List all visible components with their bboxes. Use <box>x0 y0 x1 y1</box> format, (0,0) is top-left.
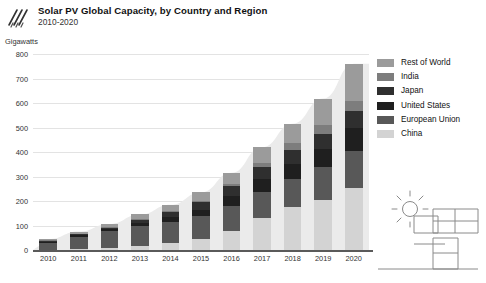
bar-series-layer <box>33 54 369 250</box>
legend-swatch-icon <box>377 102 394 110</box>
y-axis-tick-label: 400 <box>16 148 28 157</box>
bar-segment-rest-of-world <box>253 147 271 162</box>
bar-segment-european-union <box>70 237 88 250</box>
bar-segment-rest-of-world <box>162 205 180 211</box>
bar-segment-united-states <box>314 149 332 168</box>
bar-segment-rest-of-world <box>284 124 302 144</box>
chart-header: Solar PV Global Capacity, by Country and… <box>0 0 486 34</box>
legend-swatch-icon <box>377 73 394 81</box>
bar-segment-china <box>284 207 302 250</box>
bar-segment-japan <box>192 202 210 210</box>
bar-segment-united-states <box>345 128 363 151</box>
bar-2015[interactable] <box>192 192 210 250</box>
bar-segment-india <box>162 211 180 212</box>
plot-area: 0100200300400500600700800 <box>33 54 369 250</box>
bar-2010[interactable] <box>39 239 57 250</box>
y-axis-tick-label: 300 <box>16 172 28 181</box>
bar-segment-united-states <box>162 217 180 221</box>
bar-segment-china <box>162 243 180 250</box>
bar-segment-japan <box>284 150 302 164</box>
x-axis-label-2011: 2011 <box>71 254 87 263</box>
bar-segment-european-union <box>101 231 119 248</box>
bar-segment-india <box>314 125 332 134</box>
x-axis-label-2016: 2016 <box>223 254 239 263</box>
bar-segment-european-union <box>314 167 332 199</box>
x-axis-baseline <box>33 250 373 252</box>
bar-2017[interactable] <box>253 147 271 250</box>
bar-segment-rest-of-world <box>39 239 57 240</box>
x-axis-label-2018: 2018 <box>284 254 300 263</box>
bar-segment-european-union <box>162 222 180 244</box>
y-axis-tick-label: 500 <box>16 123 28 132</box>
y-axis-tick-label: 200 <box>16 197 28 206</box>
bar-segment-japan <box>253 167 271 179</box>
bar-segment-china <box>314 200 332 250</box>
x-axis-label-2013: 2013 <box>132 254 148 263</box>
y-axis-tick-label: 700 <box>16 74 28 83</box>
bar-segment-india <box>192 201 210 202</box>
bar-segment-india <box>284 143 302 150</box>
legend-item-label: European Union <box>401 113 460 126</box>
bar-segment-european-union <box>284 179 302 207</box>
bar-2011[interactable] <box>70 232 88 250</box>
legend-swatch-icon <box>377 130 394 138</box>
x-axis-label-2015: 2015 <box>193 254 209 263</box>
bar-2012[interactable] <box>101 224 119 250</box>
bar-segment-european-union <box>223 206 241 231</box>
bar-segment-rest-of-world <box>345 64 363 101</box>
y-axis-tick-label: 0 <box>24 246 28 255</box>
bar-segment-japan <box>345 111 363 128</box>
bar-segment-japan <box>162 212 180 218</box>
chart-subtitle: 2010-2020 <box>38 17 78 27</box>
x-axis-label-2012: 2012 <box>101 254 117 263</box>
bar-segment-japan <box>314 134 332 149</box>
bar-2018[interactable] <box>284 124 302 250</box>
legend-swatch-icon <box>377 87 394 95</box>
legend-item-label: China <box>401 127 422 140</box>
bar-segment-rest-of-world <box>70 232 88 234</box>
bar-segment-european-union <box>253 192 271 218</box>
legend-swatch-icon <box>377 116 394 124</box>
bar-segment-european-union <box>39 242 57 249</box>
bar-segment-japan <box>131 219 149 222</box>
bar-segment-united-states <box>131 223 149 226</box>
bar-segment-united-states <box>192 210 210 216</box>
bar-segment-united-states <box>284 164 302 179</box>
chart-page: Solar PV Global Capacity, by Country and… <box>0 0 486 283</box>
y-axis-tick-label: 800 <box>16 50 28 59</box>
bar-segment-united-states <box>39 242 57 243</box>
bar-segment-japan <box>223 186 241 196</box>
bar-segment-japan <box>39 241 57 242</box>
bar-segment-rest-of-world <box>192 192 210 200</box>
bar-segment-china <box>253 218 271 250</box>
x-axis-labels: 2010201120122013201420152016201720182019… <box>33 254 369 268</box>
bar-segment-european-union <box>345 151 363 188</box>
bar-2020[interactable] <box>345 64 363 250</box>
x-axis-label-2017: 2017 <box>254 254 270 263</box>
bar-2019[interactable] <box>314 99 332 250</box>
x-axis-label-2020: 2020 <box>345 254 361 263</box>
y-axis-tick-label: 100 <box>16 221 28 230</box>
legend-item-label: India <box>401 70 419 83</box>
diagonal-stripes-logo <box>6 6 32 30</box>
bar-segment-united-states <box>253 179 271 191</box>
legend-item-label: Rest of World <box>401 56 450 69</box>
bar-segment-united-states <box>223 196 241 206</box>
bar-segment-india <box>345 101 363 112</box>
bar-2016[interactable] <box>223 173 241 250</box>
bar-2014[interactable] <box>162 205 180 250</box>
bar-segment-india <box>253 163 271 168</box>
bar-segment-european-union <box>192 216 210 239</box>
bar-segment-united-states <box>70 235 88 236</box>
sun-and-solar-panels-illustration <box>378 176 484 280</box>
bar-segment-china <box>345 188 363 250</box>
chart-title: Solar PV Global Capacity, by Country and… <box>38 5 267 16</box>
bar-segment-rest-of-world <box>223 173 241 184</box>
bar-segment-rest-of-world <box>314 99 332 125</box>
legend-item-label: Japan <box>401 84 423 97</box>
bar-segment-china <box>192 239 210 250</box>
bar-segment-rest-of-world <box>101 224 119 227</box>
x-axis-label-2010: 2010 <box>40 254 56 263</box>
bar-2013[interactable] <box>131 214 149 250</box>
bar-segment-rest-of-world <box>131 214 149 218</box>
